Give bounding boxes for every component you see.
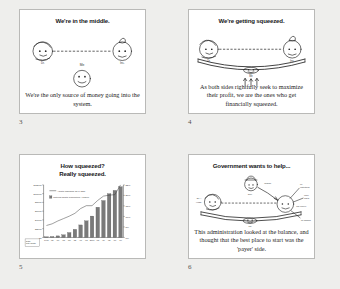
svg-text:'05: '05 [96, 239, 100, 241]
panel-5-title-line1: How squeezed? [60, 162, 104, 169]
svg-text:'85: '85 [74, 239, 78, 241]
svg-text:change: change [264, 182, 272, 184]
svg-text:National health expenditure /: National health expenditure / person [53, 196, 89, 198]
svg-text:20%: 20% [126, 194, 132, 197]
svg-text:Dr.: Dr. [41, 61, 45, 65]
svg-text:'15: '15 [108, 239, 112, 241]
svg-text:'10: '10 [102, 239, 106, 241]
svg-text:22%: 22% [126, 184, 132, 187]
panel-slot-6: Government wants to help... Dr. / Hosp. [170, 145, 340, 289]
page-number-4: 4 [188, 118, 192, 126]
page-number-5: 5 [19, 263, 23, 271]
panel-slot-3: We're in the middle. Dr. [0, 0, 170, 145]
svg-text:$2000: $2000 [35, 228, 42, 231]
svg-text:5%: 5% [126, 226, 130, 229]
svg-text:'90: '90 [79, 239, 83, 241]
svg-text:Me: Me [80, 63, 85, 67]
svg-text:Ins./Payer: Ins./Payer [296, 205, 306, 207]
svg-text:0%: 0% [126, 237, 130, 240]
svg-text:restrictions: restrictions [300, 186, 309, 188]
svg-text:no: no [300, 183, 302, 185]
svg-text:$12000: $12000 [34, 184, 43, 187]
svg-text:cost $: cost $ [304, 197, 310, 199]
svg-text:'75: '75 [62, 239, 66, 241]
panel-5-title: How squeezed? Really squeezed. [20, 162, 145, 178]
svg-text:15%: 15% [126, 205, 132, 208]
svg-text:no charges: no charges [301, 219, 311, 221]
svg-text:'19: '19 [119, 239, 123, 241]
panel-slot-4: We're getting squeezed. Dr. [170, 0, 340, 145]
comic-sheet: We're in the middle. Dr. [0, 0, 340, 289]
svg-text:Me: Me [248, 225, 252, 227]
health-cost-chart: $12000$10000$8000$6000$4000$2000$022%20%… [23, 181, 143, 254]
page-number-6: 6 [188, 263, 192, 271]
svg-text:$4000: $4000 [35, 219, 42, 222]
svg-text:10%: 10% [126, 216, 132, 219]
comic-panel-3[interactable]: We're in the middle. Dr. [19, 9, 146, 114]
svg-text:lower: lower [304, 194, 309, 196]
svg-text:'95: '95 [85, 239, 89, 241]
svg-text:$8000: $8000 [35, 201, 42, 204]
svg-text:'17: '17 [113, 239, 117, 241]
panel-3-caption: We're the only source of money going int… [25, 91, 140, 108]
comic-panel-6[interactable]: Government wants to help... Dr. / Hosp. [188, 154, 315, 259]
svg-text:Ins.: Ins. [120, 61, 125, 65]
page-number-3: 3 [19, 118, 23, 126]
svg-text:Dr. /: Dr. / [197, 197, 202, 199]
svg-text:Nat'l health: Nat'l health [26, 242, 36, 244]
svg-text:2000: 2000 [90, 239, 96, 241]
panel-slot-5: How squeezed? Really squeezed. $12000$10… [0, 145, 170, 289]
svg-text:'80: '80 [68, 239, 72, 241]
panel-6-caption: This administration looked at the balanc… [194, 228, 309, 253]
svg-text:$10000: $10000 [34, 193, 43, 196]
svg-text:'65: '65 [51, 239, 55, 241]
panel-5-title-line2: Really squeezed. [59, 170, 106, 177]
comic-panel-5[interactable]: How squeezed? Really squeezed. $12000$10… [19, 154, 146, 259]
svg-text:Gov.: Gov. [248, 193, 253, 195]
svg-text:$6000: $6000 [35, 210, 42, 213]
svg-text:'70: '70 [56, 239, 60, 241]
svg-text:Health insurance as % GDP: Health insurance as % GDP [58, 190, 86, 192]
svg-text:Hosp.: Hosp. [196, 201, 202, 203]
svg-text:1960: 1960 [44, 239, 50, 241]
panel-4-caption: As both sides rightfully seek to maximiz… [194, 83, 309, 108]
svg-text:Me: Me [249, 74, 253, 78]
comic-panel-4[interactable]: We're getting squeezed. Dr. [188, 9, 315, 114]
